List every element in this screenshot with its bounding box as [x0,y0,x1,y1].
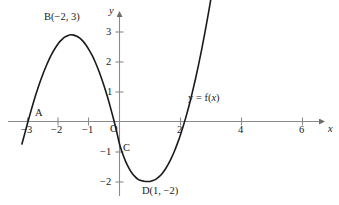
x-axis-label: x [328,124,333,135]
y-tick-label-minus-2: −2 [100,177,111,188]
point-label-a: A [35,108,43,119]
y-tick-label-minus-1: −1 [100,147,111,158]
x-tick-label-6: 6 [299,125,304,136]
y-tick-label-1: 1 [107,87,112,98]
x-tick-label-minus-2: −2 [51,125,62,136]
x-tick-label-2: 2 [177,125,182,136]
function-curve [22,0,213,182]
y-tick-label-2: 2 [106,57,111,68]
point-label-b: B(−2, 3) [44,12,80,23]
y-tick-label-3: 3 [106,27,111,38]
curve-equation-rhs: ) [216,92,220,103]
x-tick-label-minus-3: −3 [21,125,32,136]
curve-equation-label: y = f(x) [188,93,220,104]
x-tick-label-4: 4 [238,125,243,136]
origin-label: O [110,124,118,135]
plot-area [0,0,339,205]
point-label-c: C [123,143,130,154]
curve-equation-lhs: y = f( [188,92,211,103]
graph-figure: y x O −3 −2 −1 2 4 6 3 2 1 −1 −2 A B(−2,… [0,0,339,205]
point-label-d: D(1, −2) [142,186,178,197]
x-tick-label-minus-1: −1 [82,125,93,136]
y-axis-label: y [109,6,114,17]
